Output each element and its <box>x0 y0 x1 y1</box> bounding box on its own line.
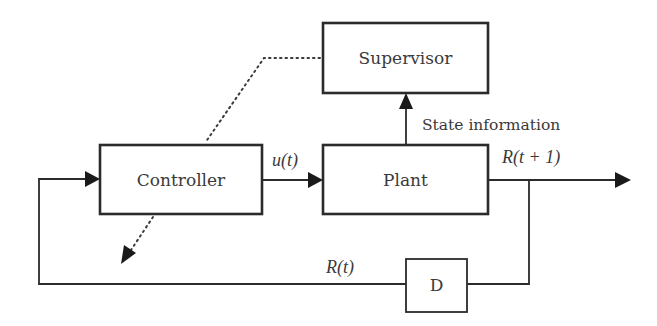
feedback-label: R(t) <box>325 257 354 278</box>
plant-block: Plant <box>323 145 488 214</box>
state-information-signal: State information <box>399 93 560 145</box>
arrowhead-icon <box>308 172 323 188</box>
plant-label: Plant <box>383 170 428 190</box>
arrowhead-icon <box>399 93 413 109</box>
arrowhead-icon <box>615 172 631 188</box>
supervisor-label: Supervisor <box>359 48 454 68</box>
supervisory-control-diagram: Supervisor Controller Plant D u(t) R(t +… <box>0 0 657 326</box>
state-information-label: State information <box>422 116 560 134</box>
arrowhead-icon <box>121 245 136 264</box>
arrowhead-icon <box>85 171 100 187</box>
delay-label: D <box>430 275 444 295</box>
output-signal: R(t + 1) <box>489 147 631 188</box>
controller-label: Controller <box>137 170 226 190</box>
controller-block: Controller <box>100 145 262 214</box>
delay-block: D <box>406 259 467 312</box>
supervisor-block: Supervisor <box>323 23 488 93</box>
control-input-label: u(t) <box>272 150 298 171</box>
control-input-signal: u(t) <box>263 150 323 188</box>
output-label: R(t + 1) <box>501 147 560 168</box>
